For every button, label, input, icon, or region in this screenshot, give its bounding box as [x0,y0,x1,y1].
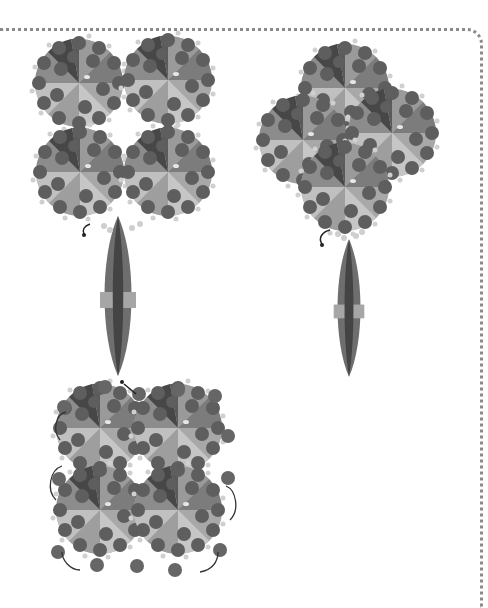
assembly-bottom-left [50,379,235,578]
assembly-top-right [254,39,440,377]
rod-top-right [334,239,365,377]
assembly-top-left [30,31,216,377]
rod-top-left [100,216,136,376]
